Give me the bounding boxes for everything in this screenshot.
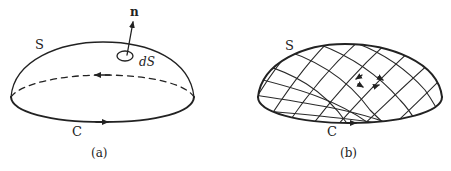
figure-a: S n dS C (a) xyxy=(11,5,194,160)
boundary-label-b: C xyxy=(327,124,337,139)
normal-label: n xyxy=(130,5,139,19)
normal-vector-arrow-icon xyxy=(127,22,133,55)
surface-label-b: S xyxy=(285,38,294,53)
stokes-theorem-diagram: S n dS C (a) xyxy=(0,0,451,171)
surface-label-a: S xyxy=(35,37,44,52)
boundary-c-curve xyxy=(11,97,194,122)
caption-b: (b) xyxy=(340,146,357,160)
area-element-label: dS xyxy=(139,55,155,69)
boundary-label-a: C xyxy=(72,124,82,139)
area-element-ds-icon xyxy=(117,51,133,61)
back-boundary-dashed xyxy=(11,75,194,97)
caption-a: (a) xyxy=(91,146,108,160)
figure-b: S C (b) xyxy=(255,38,450,160)
